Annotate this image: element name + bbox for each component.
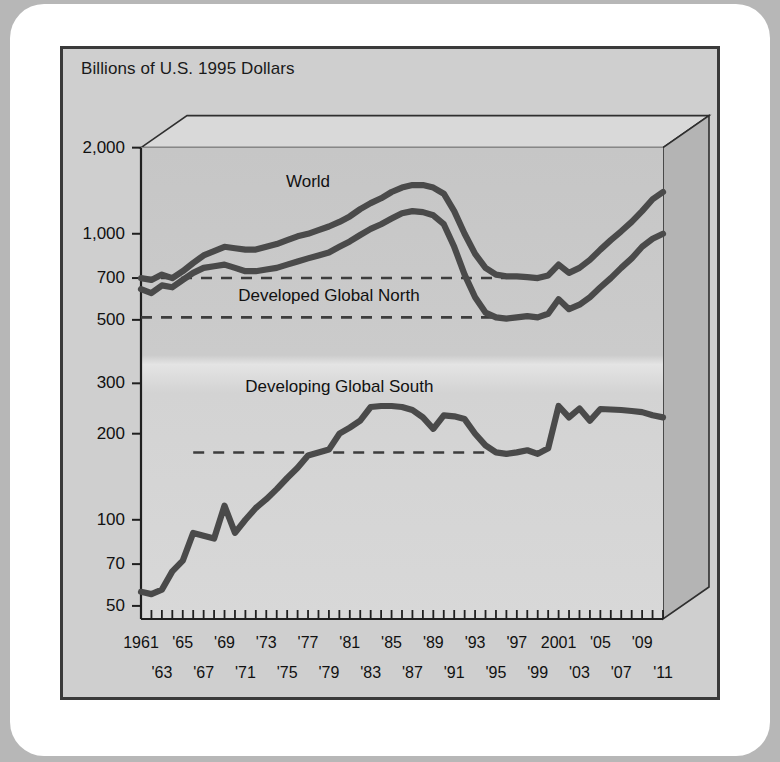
y-axis-label-500: 500 bbox=[57, 311, 125, 328]
annotation-world: World bbox=[286, 172, 330, 192]
y-axis-label-100: 100 bbox=[57, 511, 125, 528]
y-axis-label-70: 70 bbox=[57, 555, 125, 572]
chart-frame: Billions of U.S. 1995 Dollars 2,0001,000… bbox=[60, 46, 720, 700]
y-axis-label-200: 200 bbox=[57, 425, 125, 442]
x-axis-label-2009: '09 bbox=[618, 635, 666, 651]
figure-root: 1961–1994, U.S. ACDA (1998): 1; 1995–200… bbox=[0, 0, 780, 762]
y-axis-label-50: 50 bbox=[57, 597, 125, 614]
box-top-face bbox=[141, 116, 709, 148]
y-axis-label-2000: 2,000 bbox=[57, 139, 125, 156]
y-axis-label-1000: 1,000 bbox=[57, 225, 125, 242]
y-axis-label-300: 300 bbox=[57, 374, 125, 391]
box-right-face bbox=[663, 116, 709, 619]
y-axis-label-700: 700 bbox=[57, 269, 125, 286]
annotation-developed-global-north: Developed Global North bbox=[238, 286, 419, 306]
x-axis-label-2011: '11 bbox=[639, 665, 687, 681]
annotation-developing-global-south: Developing Global South bbox=[245, 377, 433, 397]
